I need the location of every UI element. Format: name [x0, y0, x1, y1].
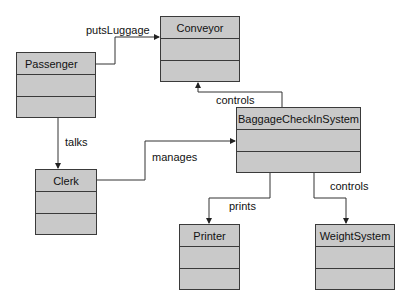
operations-compartment: [180, 269, 239, 289]
label-controls-conveyor: controls: [216, 94, 255, 106]
operations-compartment: [17, 97, 95, 117]
class-clerk[interactable]: Clerk: [35, 169, 97, 235]
attributes-compartment: [17, 75, 95, 97]
class-weight-system[interactable]: WeightSystem: [315, 224, 395, 290]
attributes-compartment: [237, 130, 360, 152]
label-puts-luggage: putsLuggage: [86, 24, 150, 36]
class-name: Conveyor: [161, 17, 239, 39]
attributes-compartment: [316, 247, 394, 269]
class-passenger[interactable]: Passenger: [16, 52, 96, 118]
operations-compartment: [237, 152, 360, 172]
attributes-compartment: [180, 247, 239, 269]
class-name: Passenger: [17, 53, 95, 75]
class-name: BaggageCheckInSystem: [237, 108, 360, 130]
label-manages: manages: [152, 151, 197, 163]
label-prints: prints: [229, 200, 256, 212]
attributes-compartment: [36, 192, 96, 214]
class-name: WeightSystem: [316, 225, 394, 247]
class-conveyor[interactable]: Conveyor: [160, 16, 240, 82]
operations-compartment: [36, 214, 96, 234]
label-controls-weight: controls: [330, 180, 369, 192]
attributes-compartment: [161, 39, 239, 61]
class-name: Printer: [180, 225, 239, 247]
puts-luggage-line: [95, 37, 159, 64]
label-talks: talks: [65, 136, 88, 148]
class-baggage-check-in-system[interactable]: BaggageCheckInSystem: [236, 107, 361, 173]
operations-compartment: [161, 61, 239, 81]
class-printer[interactable]: Printer: [179, 224, 240, 290]
prints-line: [209, 173, 270, 223]
operations-compartment: [316, 269, 394, 289]
class-name: Clerk: [36, 170, 96, 192]
